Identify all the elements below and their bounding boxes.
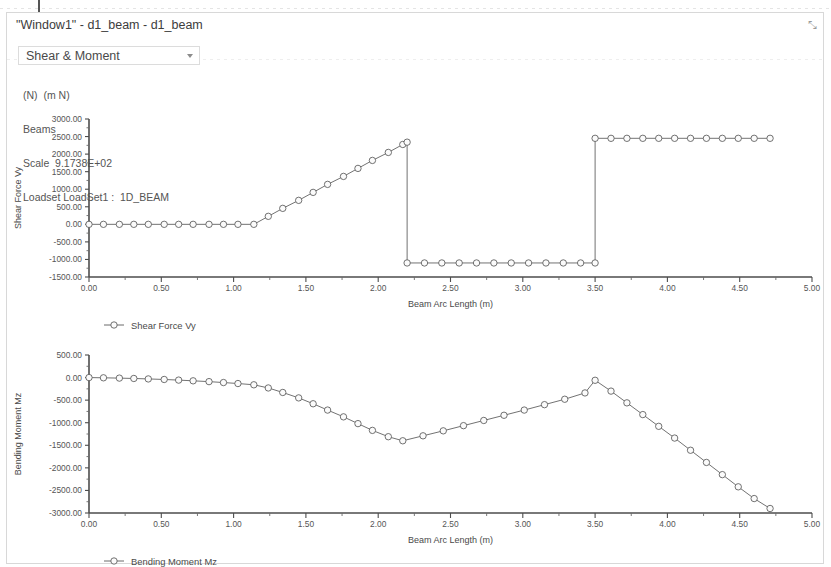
x-tick-label: 2.00: [370, 519, 387, 529]
data-point-marker: [751, 495, 757, 501]
data-point-marker: [175, 221, 181, 227]
data-point-marker: [324, 181, 330, 187]
legend-marker-icon: [111, 322, 117, 328]
y-tick-label: -500.00: [54, 395, 83, 405]
x-tick-label: 5.00: [804, 519, 821, 529]
data-point-marker: [735, 135, 741, 141]
data-point-marker: [400, 438, 406, 444]
series-polyline: [89, 138, 770, 263]
data-point-marker: [206, 378, 212, 384]
resize-handle-icon[interactable]: ⤡: [808, 19, 816, 32]
x-tick-label: 1.00: [225, 283, 242, 293]
data-point-marker: [687, 135, 693, 141]
x-tick-label: 2.50: [442, 519, 459, 529]
y-tick-label: -1500.00: [49, 440, 82, 450]
x-tick-label: 3.50: [587, 283, 604, 293]
data-point-marker: [265, 213, 271, 219]
data-point-marker: [582, 390, 588, 396]
data-point-marker: [280, 205, 286, 211]
y-tick-label: -3000.00: [49, 508, 82, 518]
window-title-bar: "Window1" - d1_beam - d1_beam ⤡: [7, 13, 823, 39]
data-point-marker: [671, 435, 677, 441]
window-title: "Window1" - d1_beam - d1_beam: [16, 18, 203, 32]
data-point-marker: [656, 423, 662, 429]
data-point-marker: [608, 388, 614, 394]
data-point-marker: [562, 396, 568, 402]
data-point-marker: [86, 221, 92, 227]
legend-label: Shear Force Vy: [131, 320, 196, 331]
x-axis-title: Beam Arc Length (m): [408, 535, 493, 545]
x-tick-label: 2.00: [370, 283, 387, 293]
data-point-marker: [161, 221, 167, 227]
data-point-marker: [501, 412, 507, 418]
data-point-marker: [251, 382, 257, 388]
data-point-marker: [220, 221, 226, 227]
data-point-marker: [592, 260, 598, 266]
x-tick-label: 0.50: [153, 519, 170, 529]
data-point-marker: [116, 375, 122, 381]
data-point-marker: [251, 221, 257, 227]
y-tick-label: 1000.00: [52, 184, 83, 194]
data-point-marker: [145, 221, 151, 227]
y-tick-label: -1000.00: [49, 418, 82, 428]
data-point-marker: [508, 260, 514, 266]
data-point-marker: [206, 221, 212, 227]
data-point-marker: [131, 221, 137, 227]
data-point-marker: [640, 135, 646, 141]
data-point-marker: [767, 135, 773, 141]
y-tick-label: -2500.00: [49, 485, 82, 495]
y-tick-label: 500.00: [56, 350, 82, 360]
x-tick-label: 2.50: [442, 283, 459, 293]
data-point-marker: [439, 260, 445, 266]
x-tick-label: 3.50: [587, 519, 604, 529]
y-tick-label: 1500.00: [52, 167, 83, 177]
plot-window: "Window1" - d1_beam - d1_beam ⤡ Shear & …: [6, 12, 824, 564]
x-tick-label: 4.50: [732, 519, 749, 529]
data-point-marker: [420, 433, 426, 439]
data-point-marker: [491, 260, 497, 266]
data-point-marker: [265, 385, 271, 391]
x-tick-label: 3.00: [515, 519, 532, 529]
quantity-select-label: Shear & Moment: [26, 49, 120, 63]
data-point-marker: [100, 375, 106, 381]
data-point-marker: [703, 135, 709, 141]
data-point-marker: [719, 135, 725, 141]
data-point-marker: [369, 157, 375, 163]
data-point-marker: [735, 484, 741, 490]
data-point-marker: [671, 135, 677, 141]
y-tick-label: -1000.00: [49, 254, 82, 264]
data-point-marker: [460, 422, 466, 428]
legend-marker-icon: [111, 558, 117, 564]
info-units: (N) (m N): [23, 90, 169, 101]
data-point-marker: [86, 374, 92, 380]
x-tick-label: 0.50: [153, 283, 170, 293]
bending-moment-chart: -3000.00-2500.00-2000.00-1500.00-1000.00…: [7, 343, 825, 565]
y-tick-label: 3000.00: [52, 114, 83, 124]
data-point-marker: [324, 407, 330, 413]
bending-moment-svg: -3000.00-2500.00-2000.00-1500.00-1000.00…: [7, 343, 825, 565]
quantity-select[interactable]: Shear & Moment: [18, 46, 200, 65]
data-point-marker: [421, 260, 427, 266]
data-point-marker: [355, 165, 361, 171]
data-point-marker: [235, 221, 241, 227]
x-tick-label: 1.50: [298, 283, 315, 293]
y-tick-label: 2000.00: [52, 149, 83, 159]
data-point-marker: [525, 260, 531, 266]
x-tick-label: 4.00: [659, 283, 676, 293]
x-tick-label: 1.50: [298, 519, 315, 529]
data-point-marker: [456, 260, 462, 266]
data-point-marker: [235, 380, 241, 386]
data-point-marker: [521, 407, 527, 413]
legend-label: Bending Moment Mz: [131, 556, 217, 567]
data-point-marker: [440, 428, 446, 434]
series-polyline: [89, 378, 770, 509]
data-point-marker: [190, 378, 196, 384]
y-tick-label: 500.00: [56, 202, 82, 212]
data-point-marker: [310, 189, 316, 195]
x-tick-label: 0.00: [81, 519, 98, 529]
data-point-marker: [608, 135, 614, 141]
y-axis-title: Bending Moment Mz: [13, 392, 23, 475]
x-tick-label: 0.00: [81, 283, 98, 293]
data-point-marker: [560, 260, 566, 266]
data-point-marker: [640, 411, 646, 417]
